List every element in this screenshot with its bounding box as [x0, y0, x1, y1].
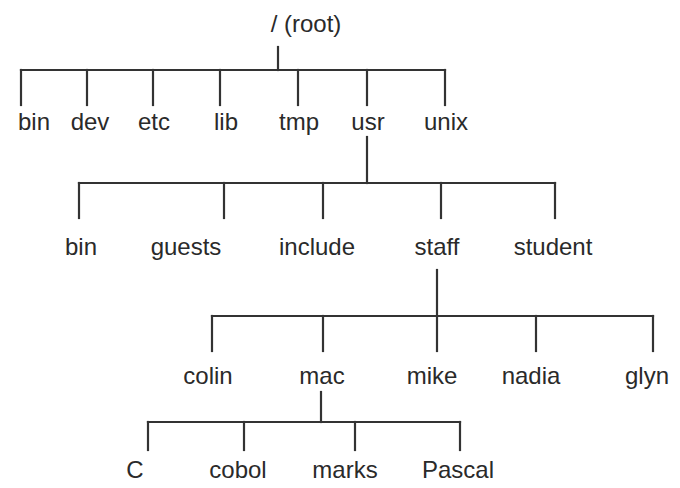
node-colin: colin	[183, 364, 232, 388]
node-etc: etc	[138, 110, 170, 134]
node-mike: mike	[407, 364, 458, 388]
node-glyn: glyn	[625, 364, 669, 388]
node-nadia: nadia	[502, 364, 561, 388]
node-cobol: cobol	[209, 458, 266, 482]
node-guests: guests	[151, 235, 222, 259]
node-tmp: tmp	[279, 110, 319, 134]
node-dev: dev	[71, 110, 110, 134]
node-staff: staff	[415, 235, 460, 259]
node-Pascal: Pascal	[422, 458, 494, 482]
node-mac: mac	[299, 364, 344, 388]
node-bin: bin	[18, 110, 50, 134]
node-include: include	[279, 235, 355, 259]
node-student: student	[514, 235, 593, 259]
node-lib: lib	[214, 110, 238, 134]
node-marks: marks	[312, 458, 377, 482]
node-unix: unix	[424, 110, 468, 134]
node-root: / (root)	[271, 12, 342, 36]
node-usr-bin: bin	[65, 235, 97, 259]
node-C: C	[126, 458, 143, 482]
node-usr: usr	[351, 110, 384, 134]
directory-tree-diagram: / (root) bin dev etc lib tmp usr unix bi…	[0, 0, 680, 488]
